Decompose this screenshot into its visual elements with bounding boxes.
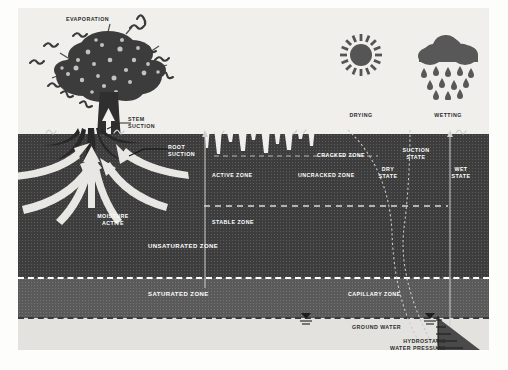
uncracked-zone-label: UNCRACKED ZONE [298, 172, 355, 179]
diagram-figure: EVAPORATION [18, 8, 489, 350]
suction-state-label: SUCTION STATE [403, 147, 430, 161]
crack-group [204, 128, 315, 154]
root-suction-label: ROOT SUCTION [168, 144, 195, 158]
root-suction-leader-line [128, 146, 170, 158]
soil-artwork [18, 128, 489, 350]
ground-water-label: GROUND WATER [352, 324, 401, 331]
saturated-zone-label: SATURATED ZONE [148, 291, 209, 298]
reference-axis-group [202, 130, 453, 340]
active-zone-label: ACTIVE ZONE [212, 172, 253, 179]
moisture-active-label: MOISTURE ACTIVE [97, 213, 129, 227]
unsaturated-zone-label: UNSATURATED ZONE [148, 243, 218, 250]
drying-label: DRYING [349, 112, 372, 119]
stable-zone-label: STABLE ZONE [212, 219, 254, 226]
cracked-zone-label: CRACKED ZONE [317, 152, 365, 159]
wetting-label: WETTING [434, 112, 462, 119]
rain-cloud-icon [410, 30, 486, 100]
suction-state-curve [348, 130, 430, 340]
wet-state-label: WET STATE [452, 166, 471, 180]
hydrostatic-water-pressure-label: HYDROSTATIC WATER PRESSURE [390, 338, 446, 350]
raindrop-group [421, 66, 474, 100]
dry-state-label: DRY STATE [379, 166, 398, 180]
sun-icon [340, 34, 382, 76]
capillary-zone-label: CAPILLARY ZONE [348, 291, 401, 298]
water-table-symbol-group [300, 313, 436, 324]
